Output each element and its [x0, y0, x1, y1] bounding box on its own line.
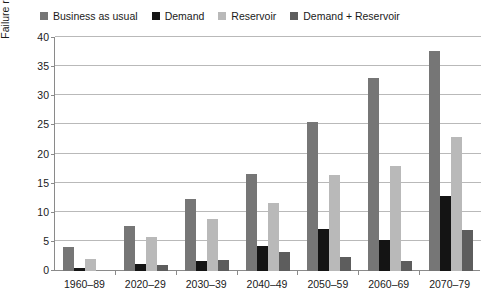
x-axis-tick-label: 2020–29	[115, 277, 176, 291]
bar[interactable]	[268, 203, 279, 271]
bar[interactable]	[146, 237, 157, 271]
bar-group	[238, 38, 299, 271]
legend-item[interactable]: Demand	[152, 11, 205, 22]
bar[interactable]	[368, 78, 379, 271]
bar[interactable]	[63, 247, 74, 271]
bar[interactable]	[279, 252, 290, 271]
bar-group	[298, 38, 359, 271]
x-axis-tick-label: 2040–49	[237, 277, 298, 291]
bar[interactable]	[246, 174, 257, 271]
legend-swatch-icon	[290, 12, 298, 20]
bar[interactable]	[257, 246, 268, 271]
bar[interactable]	[157, 265, 168, 271]
legend-item[interactable]: Reservoir	[218, 11, 276, 22]
x-tick-mark	[237, 271, 238, 275]
x-tick-mark	[176, 271, 177, 275]
bar-groups	[55, 38, 481, 271]
y-axis-tick-label: 30	[37, 90, 49, 101]
bar[interactable]	[85, 259, 96, 271]
x-axis-tick-label: 1960–89	[54, 277, 115, 291]
y-axis-tick-label: 0	[43, 265, 49, 276]
bar[interactable]	[451, 137, 462, 271]
legend-item[interactable]: Demand + Reservoir	[290, 11, 400, 22]
bar[interactable]	[429, 51, 440, 271]
bar[interactable]	[135, 264, 146, 271]
legend-swatch-icon	[218, 12, 226, 20]
bar[interactable]	[185, 199, 196, 271]
legend-swatch-icon	[152, 12, 160, 20]
y-axis-title: Failure rate (% climate model runs)	[0, 0, 12, 70]
bar[interactable]	[390, 166, 401, 271]
y-axis-tick-label: 5	[43, 235, 49, 246]
bar[interactable]	[318, 229, 329, 271]
x-tick-mark	[297, 271, 298, 275]
y-axis-tick-label: 25	[37, 119, 49, 130]
y-axis-tick-label: 10	[37, 206, 49, 217]
x-tick-mark	[358, 271, 359, 275]
legend-item[interactable]: Business as usual	[40, 11, 138, 22]
bar[interactable]	[307, 122, 318, 271]
x-tick-mark	[419, 271, 420, 275]
bar[interactable]	[401, 261, 412, 271]
bar-group	[116, 38, 177, 271]
y-axis-tick-label: 20	[37, 148, 49, 159]
legend-item-label: Business as usual	[53, 11, 138, 22]
x-axis-tick-label: 2030–39	[176, 277, 237, 291]
plot-area: 4035302520151050	[54, 38, 480, 271]
gridline	[55, 36, 481, 37]
bar[interactable]	[218, 260, 229, 271]
legend-item-label: Demand + Reservoir	[303, 11, 400, 22]
bar[interactable]	[462, 230, 473, 271]
legend-item-label: Reservoir	[231, 11, 276, 22]
bar[interactable]	[340, 257, 351, 271]
legend-item-label: Demand	[165, 11, 205, 22]
y-axis-tick-label: 15	[37, 177, 49, 188]
bar[interactable]	[124, 226, 135, 271]
y-axis-tick-label: 35	[37, 61, 49, 72]
legend-swatch-icon	[40, 12, 48, 20]
x-axis-tick-labels: 1960–892020–292030–392040–492050–592060–…	[54, 277, 480, 291]
chart-legend: Business as usualDemandReservoirDemand +…	[40, 8, 480, 24]
x-axis-tick-label: 2060–69	[358, 277, 419, 291]
bar[interactable]	[74, 268, 85, 271]
bar[interactable]	[196, 261, 207, 271]
x-tick-mark	[115, 271, 116, 275]
bar-chart-figure: Business as usualDemandReservoirDemand +…	[0, 0, 498, 299]
bar[interactable]	[440, 196, 451, 271]
bar-group	[177, 38, 238, 271]
bar-group	[55, 38, 116, 271]
x-axis-tick-label: 2070–79	[419, 277, 480, 291]
x-axis-tick-label: 2050–59	[297, 277, 358, 291]
bar-group	[359, 38, 420, 271]
bar[interactable]	[379, 240, 390, 271]
y-axis-tick-label: 40	[37, 32, 49, 43]
bar[interactable]	[329, 175, 340, 271]
bar-group	[420, 38, 481, 271]
bar[interactable]	[207, 219, 218, 271]
